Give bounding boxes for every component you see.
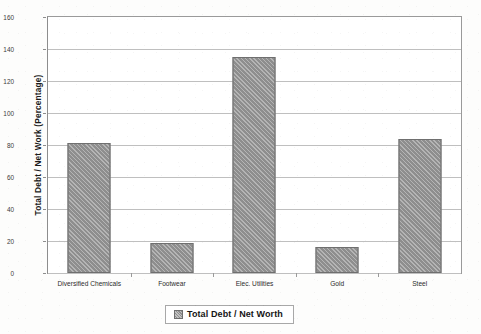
y-axis-tick-label: 20: [0, 238, 14, 245]
y-axis-tick-mark: [43, 273, 46, 274]
y-axis-tick-label: 0: [0, 270, 14, 277]
bar-slot: [213, 17, 296, 273]
bar[interactable]: [316, 247, 359, 273]
y-axis-tick-label: 60: [0, 174, 14, 181]
x-axis-tick-mark: [296, 273, 297, 277]
bar-slot: [131, 17, 214, 273]
y-axis-tick-label: 120: [0, 78, 14, 85]
bar[interactable]: [68, 143, 111, 273]
legend-swatch-icon: [174, 310, 183, 319]
bar-chart: Total Debt / Net Work (Percentage) 02040…: [0, 0, 481, 334]
x-axis-tick-marks: [48, 273, 461, 277]
bar[interactable]: [233, 57, 276, 273]
bar-slot: [378, 17, 461, 273]
y-axis-tick-mark: [43, 177, 46, 178]
bars-layer: [48, 17, 461, 273]
x-axis-tick-label: Footwear: [158, 280, 186, 287]
bar-slot: [48, 17, 131, 273]
x-axis-tick-label: Diversified Chemicals: [58, 280, 121, 287]
bar[interactable]: [398, 139, 441, 273]
y-axis-tick-mark: [43, 241, 46, 242]
y-axis-tick-mark: [43, 49, 46, 50]
y-axis-tick-mark: [43, 209, 46, 210]
x-axis-tick-label: Elec. Utilities: [236, 280, 274, 287]
bar[interactable]: [150, 243, 193, 273]
y-axis-tick-mark: [43, 145, 46, 146]
legend: Total Debt / Net Worth: [165, 305, 294, 324]
y-axis-tick-label: 100: [0, 110, 14, 117]
y-axis-tick-label: 160: [0, 14, 14, 21]
x-axis-tick-label: Gold: [330, 280, 344, 287]
y-axis-tick-label: 40: [0, 206, 14, 213]
y-axis-title: Total Debt / Net Work (Percentage): [33, 25, 43, 265]
x-axis-tick-mark: [378, 273, 379, 277]
x-axis-tick-group: Diversified ChemicalsFootwearElec. Utili…: [48, 280, 461, 294]
y-axis-tick-label: 140: [0, 46, 14, 53]
bar-slot: [296, 17, 379, 273]
y-axis-tick-mark: [43, 81, 46, 82]
x-axis-tick-mark: [213, 273, 214, 277]
x-axis-tick-label: Steel: [412, 280, 427, 287]
x-axis-tick-mark: [131, 273, 132, 277]
legend-label: Total Debt / Net Worth: [187, 309, 283, 319]
y-axis-tick-mark: [43, 17, 46, 18]
y-axis-tick-mark: [43, 113, 46, 114]
y-axis-tick-label: 80: [0, 142, 14, 149]
